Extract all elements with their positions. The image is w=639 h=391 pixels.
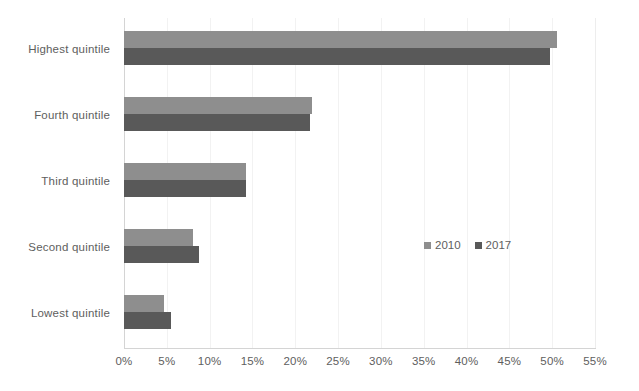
bar-2010-third-quintile	[124, 163, 246, 180]
category-row: Highest quintile	[0, 18, 639, 84]
chart-legend: 20102017	[424, 239, 511, 251]
bar-2010-second-quintile	[124, 229, 193, 246]
category-label: Highest quintile	[0, 43, 110, 55]
legend-swatch-icon	[475, 242, 482, 249]
bar-2010-fourth-quintile	[124, 97, 312, 114]
bar-2010-lowest-quintile	[124, 295, 164, 312]
legend-swatch-icon	[424, 242, 431, 249]
legend-item-2010[interactable]: 2010	[424, 239, 461, 251]
x-axis-line	[124, 348, 596, 349]
bar-2017-fourth-quintile	[124, 114, 310, 131]
legend-label: 2017	[486, 239, 512, 251]
bar-2010-highest-quintile	[124, 31, 557, 48]
x-tick-label: 55%	[565, 355, 625, 367]
category-row: Fourth quintile	[0, 84, 639, 150]
legend-item-2017[interactable]: 2017	[475, 239, 512, 251]
legend-label: 2010	[435, 239, 461, 251]
category-label: Second quintile	[0, 241, 110, 253]
category-label: Lowest quintile	[0, 307, 110, 319]
bar-2017-second-quintile	[124, 246, 199, 263]
bar-chart: Highest quintileFourth quintileThird qui…	[0, 0, 639, 391]
category-label: Fourth quintile	[0, 109, 110, 121]
bar-2017-highest-quintile	[124, 48, 550, 65]
category-row: Third quintile	[0, 150, 639, 216]
bar-2017-lowest-quintile	[124, 312, 171, 329]
category-label: Third quintile	[0, 175, 110, 187]
category-row: Lowest quintile	[0, 282, 639, 348]
category-row: Second quintile	[0, 216, 639, 282]
bar-2017-third-quintile	[124, 180, 246, 197]
